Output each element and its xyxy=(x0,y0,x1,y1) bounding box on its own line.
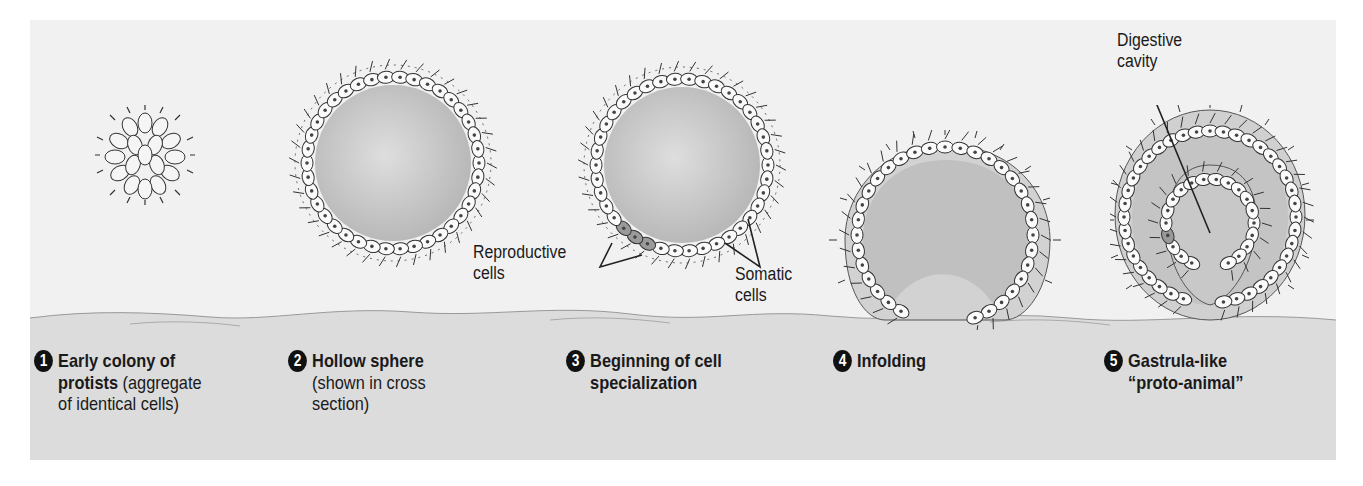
stage-number-badge: 4 xyxy=(833,350,852,372)
stage-5-title-2: “proto-animal” xyxy=(1104,372,1243,393)
stage-1-desc-2: of identical cells) xyxy=(34,393,202,414)
stage-number-badge: 2 xyxy=(288,350,307,372)
somatic-label-line1: Somatic xyxy=(735,264,792,285)
digestive-label-line2: cavity xyxy=(1117,51,1182,72)
stage-3-caption: 3Beginning of cell specialization xyxy=(566,350,722,393)
stage-2-caption: 2Hollow sphere (shown in cross section) xyxy=(288,350,426,414)
cell-specialization-illustration xyxy=(570,45,800,285)
diagram-panel: Reproductive cells Somatic cells Digesti… xyxy=(30,20,1336,460)
stage-4-caption: 4Infolding xyxy=(833,350,926,372)
reproductive-cells-label: Reproductive cells xyxy=(473,242,566,284)
gastrula-illustration xyxy=(1110,105,1320,330)
stage-5-title: Gastrula-like xyxy=(1128,350,1227,371)
stage-5-caption: 5Gastrula-like “proto-animal” xyxy=(1104,350,1243,393)
stage-1-title: Early colony of xyxy=(58,350,175,371)
stage-3-title: Beginning of cell xyxy=(590,350,722,371)
stage-1-title-2: protists xyxy=(58,372,118,393)
digestive-cavity-label: Digestive cavity xyxy=(1117,30,1182,72)
stage-number-badge: 1 xyxy=(34,350,53,372)
stage-3-title-2: specialization xyxy=(566,372,722,393)
somatic-label-line2: cells xyxy=(735,285,792,306)
stage-2-desc: (shown in cross xyxy=(288,372,426,393)
hollow-sphere-illustration xyxy=(285,45,505,275)
somatic-cells-label: Somatic cells xyxy=(735,264,792,306)
stage-2-desc-2: section) xyxy=(288,393,426,414)
digestive-label-line1: Digestive xyxy=(1117,30,1182,51)
stage-1-desc: (aggregate xyxy=(118,372,202,393)
stage-number-badge: 5 xyxy=(1104,350,1123,372)
stage-number-badge: 3 xyxy=(566,350,585,372)
reproductive-label-line1: Reproductive xyxy=(473,242,566,263)
protist-colony-illustration xyxy=(95,105,195,205)
reproductive-label-line2: cells xyxy=(473,263,566,284)
infolding-illustration xyxy=(825,130,1065,330)
stage-4-title: Infolding xyxy=(857,350,926,371)
stage-1-caption: 1Early colony of protists (aggregate of … xyxy=(34,350,202,414)
stage-2-title: Hollow sphere xyxy=(312,350,424,371)
